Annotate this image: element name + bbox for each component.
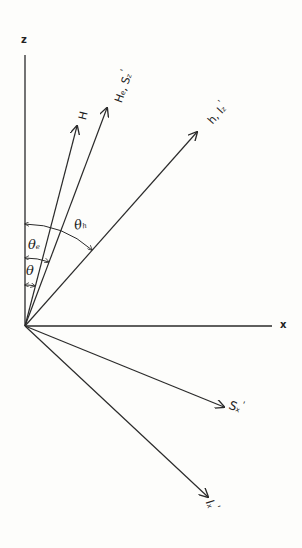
vector-Ix xyxy=(25,326,208,497)
x-axis-label: x xyxy=(280,319,286,330)
label-theta-e: θe xyxy=(28,237,40,252)
label-theta-h: θh xyxy=(73,216,88,233)
vector-Sx xyxy=(25,326,224,407)
arc-theta xyxy=(25,285,35,286)
vector-He xyxy=(25,108,107,326)
arc-theta-e xyxy=(25,258,49,262)
diagram-lines xyxy=(0,0,302,548)
z-axis-label: z xyxy=(21,34,27,45)
label-theta: θ xyxy=(26,263,34,278)
vector-diagram: z x H He, Sz' h, Iz' Sx' Ix' θ θe θh xyxy=(0,0,302,548)
